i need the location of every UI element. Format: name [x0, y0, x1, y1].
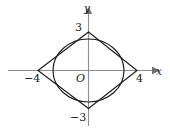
y-axis-label: y [84, 3, 90, 14]
y-tick-label-negative-3: −3 [70, 112, 86, 123]
coordinate-diagram: y x 3 −3 −4 4 O [0, 0, 170, 137]
x-tick-label-positive-4: 4 [136, 73, 143, 84]
x-tick-label-negative-4: −4 [24, 73, 40, 84]
origin-label: O [76, 73, 85, 84]
x-axis-label: x [156, 66, 162, 77]
y-tick-label-positive-3: 3 [75, 22, 82, 33]
